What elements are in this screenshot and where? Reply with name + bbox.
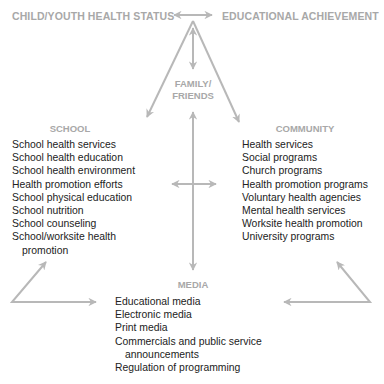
list-item: School counseling	[12, 217, 135, 230]
list-item: School health education	[12, 151, 135, 164]
school-heading: SCHOOL	[40, 123, 100, 135]
media-school-arrow	[12, 262, 96, 302]
continuation-text: announcements	[115, 348, 262, 361]
list-item: Mental health services	[242, 204, 368, 217]
community-heading: COMMUNITY	[270, 123, 340, 135]
media-community-arrow	[284, 262, 370, 302]
list-item: Social programs	[242, 151, 368, 164]
media-heading: MEDIA	[163, 279, 223, 291]
list-item: Voluntary health agencies	[242, 191, 368, 204]
list-item: Regulation of programming	[115, 361, 262, 374]
list-item: School health environment	[12, 164, 135, 177]
media-list: Educational media Electronic media Print…	[115, 295, 262, 374]
list-item: School/worksite health	[12, 230, 135, 243]
list-item: Educational media	[115, 295, 262, 308]
list-item: Church programs	[242, 164, 368, 177]
list-item-continuation: announcements	[115, 348, 262, 361]
list-item: School nutrition	[12, 204, 135, 217]
family-label-line1: FAMILY/	[163, 78, 223, 90]
list-item: Health promotion efforts	[12, 178, 135, 191]
list-item: University programs	[242, 230, 368, 243]
child-youth-health-status-label: CHILD/YOUTH HEALTH STATUS	[12, 10, 174, 22]
family-label-line2: FRIENDS	[163, 90, 223, 102]
apex-to-community-arrow	[193, 21, 239, 122]
list-item: School health services	[12, 138, 135, 151]
school-list: School health services School health edu…	[12, 138, 135, 257]
list-item: Electronic media	[115, 308, 262, 321]
family-friends-label: FAMILY/ FRIENDS	[163, 78, 223, 102]
list-item: Print media	[115, 321, 262, 334]
apex-to-school-arrow	[147, 21, 193, 117]
list-item: Health promotion programs	[242, 178, 368, 191]
community-list: Health services Social programs Church p…	[242, 138, 368, 244]
list-item: Commercials and public service	[115, 335, 262, 348]
list-item: Worksite health promotion	[242, 217, 368, 230]
list-item: School physical education	[12, 191, 135, 204]
list-item: Health services	[242, 138, 368, 151]
educational-achievement-label: EDUCATIONAL ACHIEVEMENT	[222, 10, 379, 22]
continuation-text: promotion	[12, 244, 135, 257]
list-item-continuation: promotion	[12, 244, 135, 257]
